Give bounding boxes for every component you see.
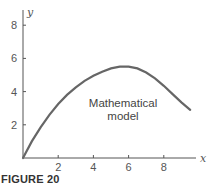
x-axis-label: x [200, 152, 207, 165]
y-ticks: 2468 [11, 19, 26, 131]
line-chart: 2468 2468 x y Mathematical model [0, 0, 217, 172]
axes [23, 10, 196, 158]
y-tick-label: 2 [11, 119, 17, 131]
y-tick-label: 4 [11, 86, 17, 98]
x-tick-label: 2 [55, 161, 61, 172]
y-axis-label: y [26, 6, 34, 19]
figure-caption: FIGURE 20 [1, 173, 60, 185]
y-tick-label: 6 [11, 52, 17, 64]
x-tick-label: 8 [161, 161, 167, 172]
y-tick-label: 8 [11, 19, 17, 31]
annotation-line-2: model [107, 110, 138, 122]
annotation-line-1: Mathematical [89, 97, 157, 109]
x-tick-label: 4 [90, 161, 96, 172]
x-tick-label: 6 [126, 161, 132, 172]
